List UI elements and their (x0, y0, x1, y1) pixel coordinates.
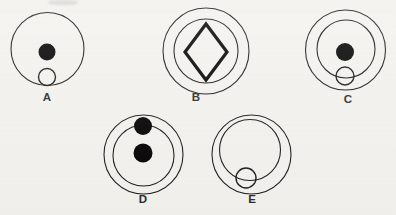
figure-label-a: A (43, 91, 51, 103)
d-black-dot-bottom (134, 144, 153, 163)
b-inner-circle (174, 19, 238, 83)
c-black-dot (336, 43, 354, 61)
figure-label-b: B (192, 91, 200, 103)
b-diamond (185, 24, 227, 80)
figure-sheet: ABCDE (0, 0, 396, 215)
figure-label-d: D (139, 193, 147, 205)
figure-d[interactable]: D (104, 115, 183, 205)
a-small-hollow-circle (39, 69, 56, 86)
figure-label-e: E (248, 193, 256, 205)
e-inner-circle (220, 120, 281, 181)
d-black-dot-top (134, 117, 152, 135)
figure-a[interactable]: A (11, 13, 84, 104)
a-black-dot (39, 44, 56, 61)
figure-c[interactable]: C (306, 10, 386, 105)
figure-b[interactable]: B (163, 8, 249, 103)
e-outer-circle (212, 115, 291, 194)
figure-canvas: ABCDE (0, 0, 396, 215)
c-small-hollow-circle (336, 67, 354, 85)
figure-e[interactable]: E (212, 115, 291, 205)
figure-label-c: C (344, 93, 352, 105)
